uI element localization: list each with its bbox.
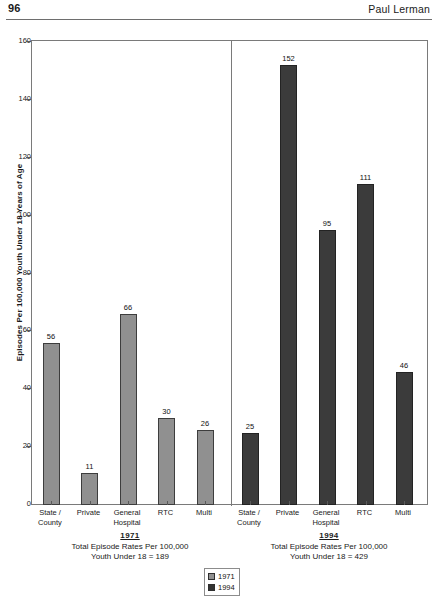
x-tick-mark xyxy=(404,501,405,505)
panel-caption: 1971Total Episode Rates Per 100,000Youth… xyxy=(30,531,230,563)
page-number: 96 xyxy=(8,2,21,14)
legend-label-1994: 1994 xyxy=(218,583,235,592)
x-category-label-line2: County xyxy=(27,518,73,528)
bar-chart-figure: Episodes Per 100,000 Youth Under 18 Year… xyxy=(0,26,438,600)
x-tick-mark xyxy=(90,501,91,505)
panel-caption-line2: Youth Under 18 = 429 xyxy=(229,552,429,563)
bar-value-label: 30 xyxy=(150,408,184,416)
x-tick-mark xyxy=(51,501,52,505)
x-category-label-line1: Multi xyxy=(181,508,227,518)
bar-value-label: 25 xyxy=(233,423,267,431)
bar xyxy=(357,184,374,505)
bar xyxy=(197,430,214,505)
bar xyxy=(120,314,137,505)
bar xyxy=(158,418,175,505)
legend-swatch-1971-icon xyxy=(208,573,215,580)
bar-value-label: 95 xyxy=(310,220,344,228)
x-tick-mark xyxy=(327,501,328,505)
bar xyxy=(319,230,336,505)
x-category-label-line2: County xyxy=(226,518,272,528)
panel-caption-year: 1994 xyxy=(229,531,429,542)
legend-item-1994: 1994 xyxy=(208,582,235,593)
plot-area: 5611663026251529511146 xyxy=(31,40,428,505)
bar-value-label: 26 xyxy=(188,420,222,428)
panel-caption-line1: Total Episode Rates Per 100,000 xyxy=(30,542,230,553)
x-tick-mark xyxy=(289,501,290,505)
legend-item-1971: 1971 xyxy=(208,571,235,582)
panel-caption-line1: Total Episode Rates Per 100,000 xyxy=(229,542,429,553)
panel-caption: 1994Total Episode Rates Per 100,000Youth… xyxy=(229,531,429,563)
bar-value-label: 56 xyxy=(34,333,68,341)
header-divider-rule xyxy=(6,19,432,20)
chart-legend: 1971 1994 xyxy=(204,568,240,596)
bar xyxy=(280,65,297,505)
x-category-label: Multi xyxy=(181,508,227,518)
bar-value-label: 152 xyxy=(272,55,306,63)
y-axis-ticks: 020406080100120140160 xyxy=(0,40,31,505)
panel-divider xyxy=(231,41,232,506)
page-header: 96 Paul Lerman xyxy=(0,0,438,26)
running-head-author: Paul Lerman xyxy=(368,3,430,15)
x-category-label-line2: Hospital xyxy=(303,518,349,528)
panel-caption-line2: Youth Under 18 = 189 xyxy=(30,552,230,563)
y-tick-label: 0 xyxy=(7,500,31,508)
bar xyxy=(43,343,60,505)
bar-value-label: 66 xyxy=(111,304,145,312)
x-tick-mark xyxy=(366,501,367,505)
legend-swatch-1994-icon xyxy=(208,584,215,591)
x-category-label-line1: Multi xyxy=(380,508,426,518)
legend-label-1971: 1971 xyxy=(218,572,235,581)
x-tick-mark xyxy=(128,501,129,505)
x-category-label-line2: Hospital xyxy=(104,518,150,528)
bar xyxy=(396,372,413,505)
x-tick-mark xyxy=(205,501,206,505)
x-category-label: Multi xyxy=(380,508,426,518)
bar-value-label: 11 xyxy=(73,463,107,471)
x-tick-mark xyxy=(167,501,168,505)
bar-value-label: 111 xyxy=(349,174,383,182)
panel-caption-year: 1971 xyxy=(30,531,230,542)
bar-value-label: 46 xyxy=(387,362,421,370)
bar xyxy=(242,433,259,505)
x-tick-mark xyxy=(250,501,251,505)
